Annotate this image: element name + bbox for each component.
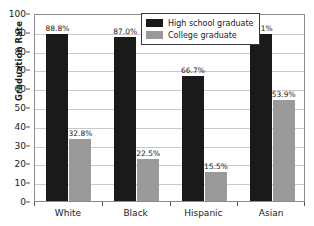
bar-value-label: 87.0% (113, 27, 137, 36)
y-tick-mark (26, 126, 30, 127)
y-tick-label: 80 (15, 47, 26, 57)
x-tick-mark (237, 202, 238, 206)
y-tick-mark (26, 108, 30, 109)
legend-swatch-high-school-icon (146, 19, 163, 27)
bar-value-label: 22.5% (136, 149, 160, 158)
legend-label-college: College graduate (168, 31, 237, 40)
y-axis-ticks: 1009080706050403020100 (0, 14, 30, 202)
y-tick-label: 90 (15, 28, 26, 38)
y-tick-mark (26, 164, 30, 165)
legend-item-college: College graduate (146, 29, 254, 41)
bar-value-label: 15.5% (204, 162, 228, 171)
x-tick-label: Black (123, 208, 147, 218)
bar: 88.8% (46, 34, 68, 201)
bar-value-label: 53.9% (272, 90, 296, 99)
x-tick-label: Hispanic (184, 208, 222, 218)
legend: High school graduate College graduate (141, 13, 260, 45)
y-tick-mark (26, 145, 30, 146)
x-tick-label: White (55, 208, 81, 218)
x-tick-mark (102, 202, 103, 206)
legend-label-high-school: High school graduate (168, 19, 254, 28)
y-tick-mark (26, 51, 30, 52)
chart-title-clipped (0, 0, 314, 5)
bar-value-label: 88.8% (45, 24, 69, 33)
legend-swatch-college-icon (146, 31, 163, 39)
x-tick-mark (304, 202, 305, 206)
y-tick-label: 20 (15, 159, 26, 169)
y-tick-label: 50 (15, 103, 26, 113)
y-tick-label: 70 (15, 65, 26, 75)
x-tick-label: Asian (259, 208, 284, 218)
y-tick-mark (26, 202, 30, 203)
bar-chart: Graduation Rate 1009080706050403020100 8… (0, 0, 314, 226)
x-axis: WhiteBlackHispanicAsian (34, 202, 305, 226)
y-tick-mark (26, 70, 30, 71)
bar-value-label: 66.7% (181, 66, 205, 75)
legend-item-high-school: High school graduate (146, 17, 254, 29)
bar: 15.5% (205, 172, 227, 201)
y-tick-mark (26, 89, 30, 90)
y-tick-label: 30 (15, 141, 26, 151)
bar: 66.7% (182, 76, 204, 201)
x-tick-mark (170, 202, 171, 206)
y-tick-mark (26, 32, 30, 33)
y-tick-label: 60 (15, 84, 26, 94)
bar: 87.0% (114, 37, 136, 201)
bar: 22.5% (137, 159, 159, 201)
y-tick-mark (26, 14, 30, 15)
bar: 89.1% (250, 34, 272, 202)
y-tick-label: 100 (9, 9, 26, 19)
y-tick-mark (26, 183, 30, 184)
bar-value-label: 32.8% (68, 129, 92, 138)
bar: 32.8% (69, 139, 91, 201)
bar: 53.9% (273, 100, 295, 201)
x-tick-mark (34, 202, 35, 206)
y-tick-label: 10 (15, 178, 26, 188)
bar-group: 88.8%32.8% (46, 15, 91, 201)
y-tick-label: 40 (15, 122, 26, 132)
